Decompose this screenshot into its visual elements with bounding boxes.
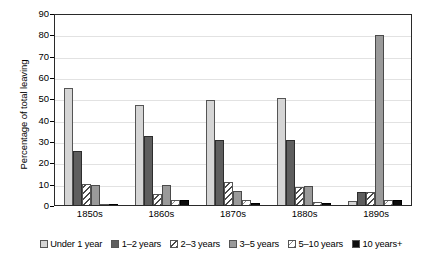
- bar: [277, 98, 286, 205]
- bar-groups: [55, 15, 411, 205]
- bar-group: [206, 15, 260, 205]
- y-axis-ticks: 0102030405060708090: [20, 0, 54, 260]
- legend-label: 3–5 years: [240, 239, 279, 249]
- bar: [162, 185, 171, 205]
- legend-item[interactable]: 2–3 years: [170, 239, 220, 249]
- y-tick-label: 90: [38, 9, 49, 19]
- legend-label: 2–3 years: [181, 239, 220, 249]
- plot-area: [54, 14, 412, 206]
- legend-item[interactable]: 5–10 years: [288, 239, 343, 249]
- legend-swatch-icon: [170, 240, 178, 248]
- bar: [357, 192, 366, 205]
- bar: [215, 140, 224, 205]
- y-tick-label: 70: [38, 52, 49, 62]
- y-tick-label: 20: [38, 158, 49, 168]
- legend-item[interactable]: 3–5 years: [229, 239, 279, 249]
- bar-group: [348, 15, 402, 205]
- legend-swatch-icon: [352, 240, 360, 248]
- bar: [180, 200, 189, 205]
- y-tick-label: 40: [38, 116, 49, 126]
- bar: [322, 203, 331, 205]
- y-tick-label: 60: [38, 73, 49, 83]
- bar: [304, 186, 313, 205]
- bar: [144, 136, 153, 205]
- y-tick-label: 30: [38, 137, 49, 147]
- bar: [313, 202, 322, 205]
- legend-item[interactable]: 10 years+: [352, 239, 402, 249]
- legend-label: Under 1 year: [50, 239, 102, 249]
- x-tick-label: 1870s: [220, 207, 246, 221]
- bar: [348, 201, 357, 205]
- bar: [286, 140, 295, 205]
- bar: [82, 184, 91, 205]
- y-tick-label: 80: [38, 30, 49, 40]
- chart-legend: Under 1 year1–2 years2–3 years3–5 years5…: [0, 236, 442, 252]
- bar: [233, 191, 242, 205]
- legend-item[interactable]: 1–2 years: [111, 239, 161, 249]
- legend-swatch-icon: [288, 240, 296, 248]
- x-tick-label: 1860s: [148, 207, 174, 221]
- bar-group: [277, 15, 331, 205]
- x-tick-label: 1850s: [77, 207, 103, 221]
- legend-swatch-icon: [111, 240, 119, 248]
- x-tick-label: 1890s: [363, 207, 389, 221]
- legend-label: 5–10 years: [299, 239, 344, 249]
- x-tick-label: 1880s: [292, 207, 318, 221]
- bar: [153, 194, 162, 205]
- legend-swatch-icon: [229, 240, 237, 248]
- y-tick-label: 10: [38, 180, 49, 190]
- legend-label: 1–2 years: [122, 239, 161, 249]
- bar: [100, 204, 109, 206]
- bar: [224, 182, 233, 205]
- bar: [91, 185, 100, 205]
- bar-chart-figure: Percentage of total leaving 010203040506…: [0, 0, 442, 260]
- bar: [171, 200, 180, 205]
- bar-group: [64, 15, 118, 205]
- bar: [295, 187, 304, 205]
- bar: [384, 200, 393, 205]
- legend-label: 10 years+: [363, 239, 403, 249]
- y-tick-label: 0: [44, 201, 49, 211]
- bar: [366, 192, 375, 205]
- bar: [73, 151, 82, 205]
- bar: [135, 105, 144, 205]
- bar: [251, 203, 260, 205]
- x-axis-ticks: 1850s1860s1870s1880s1890s: [54, 207, 412, 225]
- bar: [393, 200, 402, 205]
- y-tick-label: 50: [38, 94, 49, 104]
- bar: [375, 35, 384, 205]
- legend-item[interactable]: Under 1 year: [40, 239, 102, 249]
- bar: [206, 100, 215, 205]
- bar: [242, 200, 251, 205]
- legend-swatch-icon: [40, 240, 48, 248]
- bar-group: [135, 15, 189, 205]
- bar: [64, 88, 73, 205]
- bar: [109, 204, 118, 206]
